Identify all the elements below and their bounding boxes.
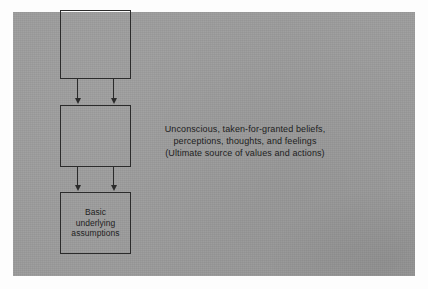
scan-blotch — [265, 186, 415, 276]
arrow-head-down-icon — [75, 98, 81, 104]
caption-block: Unconscious, taken-for-granted beliefs, … — [155, 123, 335, 159]
assumptions-label-line-2: underlying — [76, 218, 116, 228]
assumptions-label-line-3: assumptions — [71, 228, 119, 238]
diagram-figure: Basic underlying assumptions Unconscious… — [0, 0, 428, 289]
values-box — [60, 105, 131, 167]
arrow-head-down-icon — [111, 185, 117, 191]
arrow-head-down-icon — [111, 98, 117, 104]
arrow-upper-left — [73, 79, 82, 105]
assumptions-label-line-1: Basic — [85, 207, 106, 217]
caption-line-3: (Ultimate source of values and actions) — [155, 147, 335, 159]
arrow-head-down-icon — [75, 185, 81, 191]
arrow-shaft — [77, 167, 78, 186]
assumptions-box: Basic underlying assumptions — [60, 192, 131, 254]
arrow-upper-right — [109, 79, 118, 105]
arrow-lower-right — [109, 167, 118, 192]
arrow-lower-left — [73, 167, 82, 192]
caption-line-1: Unconscious, taken-for-granted beliefs, — [155, 123, 335, 135]
artifacts-box — [60, 10, 131, 79]
assumptions-box-label: Basic underlying assumptions — [71, 207, 119, 239]
arrow-shaft — [113, 167, 114, 186]
arrow-shaft — [113, 79, 114, 99]
caption-line-2: perceptions, thoughts, and feelings — [155, 135, 335, 147]
arrow-shaft — [77, 79, 78, 99]
